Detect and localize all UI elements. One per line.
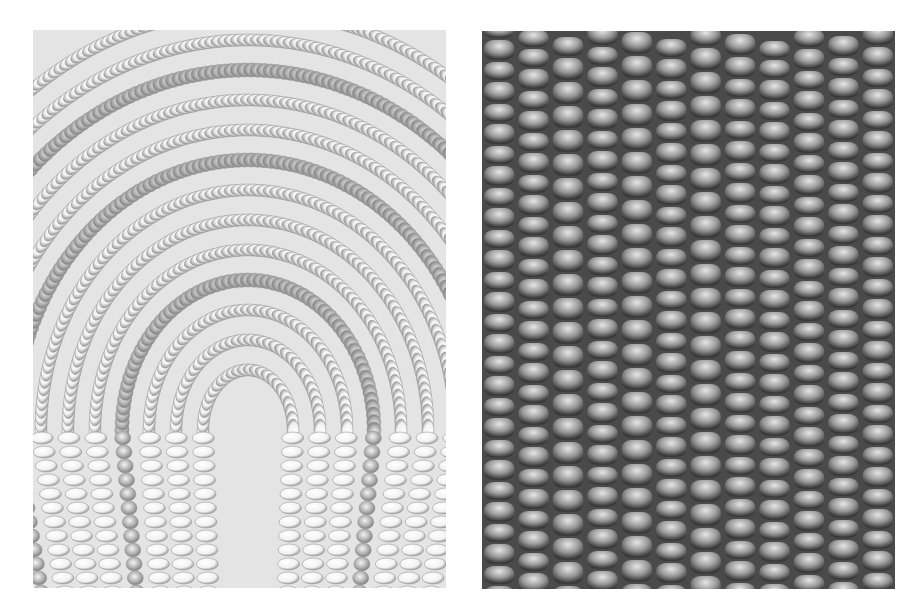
bead-grid-image: [482, 31, 895, 589]
beadwork-arches-image: [33, 30, 446, 588]
photo-concentric-beadwork: [33, 30, 446, 588]
photo-bead-columns-closeup: [482, 31, 895, 589]
